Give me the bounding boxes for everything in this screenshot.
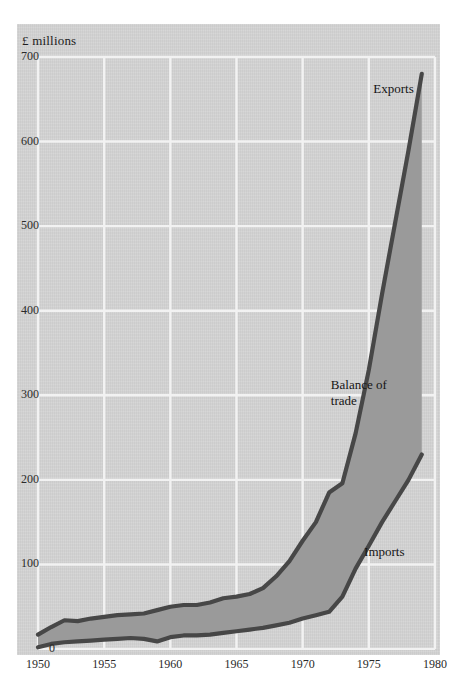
y-axis-tick-label: 500 bbox=[21, 218, 55, 233]
y-axis-tick-label: 600 bbox=[21, 134, 55, 149]
y-axis-tick-label: 0 bbox=[21, 641, 55, 656]
balance-of-trade-annotation-label: Balance of trade bbox=[331, 377, 405, 408]
x-axis-tick-label: 1980 bbox=[412, 657, 457, 672]
x-axis-tick-label: 1950 bbox=[15, 657, 61, 672]
balance-of-trade-band bbox=[38, 74, 422, 647]
y-axis-tick-label: 200 bbox=[21, 472, 55, 487]
x-axis-tick-label: 1955 bbox=[81, 657, 127, 672]
plot-area bbox=[17, 50, 440, 650]
y-axis-tick-label: 700 bbox=[21, 49, 55, 64]
imports-annotation-label: Imports bbox=[364, 544, 404, 559]
y-axis-tick-label: 300 bbox=[21, 387, 55, 402]
x-axis-tick-label: 1970 bbox=[280, 657, 326, 672]
x-axis-tick-label: 1975 bbox=[346, 657, 392, 672]
exports-annotation-label: Exports bbox=[373, 81, 413, 96]
y-axis-tick-label: 400 bbox=[21, 303, 55, 318]
y-axis-tick-label: 100 bbox=[21, 556, 55, 571]
chart-canvas bbox=[17, 50, 440, 650]
x-axis-tick-label: 1960 bbox=[147, 657, 193, 672]
area-chart-svg bbox=[17, 50, 440, 650]
axis-unit-label: £ millions bbox=[22, 33, 76, 49]
chart-figure: £ millions 0100200300400500600700 195019… bbox=[0, 0, 457, 699]
x-axis-tick-label: 1965 bbox=[214, 657, 260, 672]
